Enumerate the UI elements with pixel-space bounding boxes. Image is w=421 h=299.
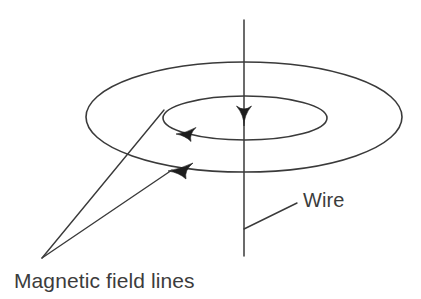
field-lines-leader-inner	[42, 110, 164, 258]
diagram-canvas: Wire Magnetic field lines	[0, 0, 421, 299]
field-lines-label: Magnetic field lines	[14, 269, 195, 292]
wire-label: Wire	[303, 189, 345, 211]
wire-leader	[244, 203, 297, 229]
magnetic-field-diagram: Wire Magnetic field lines	[0, 0, 421, 299]
field-lines-leader-outer	[42, 170, 172, 258]
current-direction-arrow-icon	[237, 106, 252, 126]
